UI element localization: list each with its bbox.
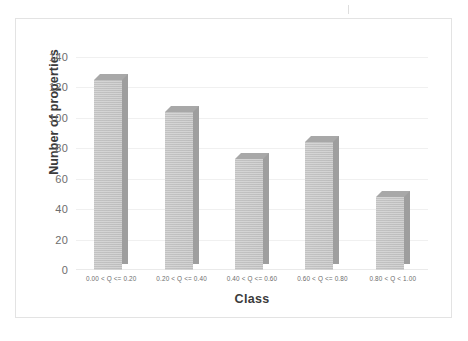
x-tick-label: 0.20 < Q <= 0.40 [146,275,216,289]
y-tick-label: 60 [55,173,68,185]
bar-side-face [333,136,339,264]
bar-column[interactable] [165,112,199,270]
y-tick-label: 40 [55,203,68,215]
bar-side-face [193,106,199,264]
y-axis-tick-labels: 140 120 100 80 60 40 20 0 [0,57,76,270]
bars-layer [76,57,428,270]
y-tick-label: 20 [55,234,68,246]
bar-front-face [376,197,404,270]
plot-area [76,57,428,270]
bar-column[interactable] [94,80,128,270]
bar-column[interactable] [376,197,410,270]
bar-side-face [122,74,128,264]
y-tick-label: 100 [49,112,68,124]
y-tick-label: 0 [62,264,68,276]
bar-slot [217,57,287,270]
bar-side-face [263,153,269,264]
bar-front-face [235,159,263,270]
bar-side-face [404,191,410,264]
x-tick-label: 0.00 < Q <= 0.20 [76,275,146,289]
bar-front-face [94,80,122,270]
bar-slot [287,57,357,270]
bar-chart-figure: Nunber of properties 140 120 100 80 60 4… [0,0,468,341]
x-axis-tick-labels: 0.00 < Q <= 0.20 0.20 < Q <= 0.40 0.40 <… [76,275,428,289]
x-tick-label: 0.80 < Q < 1.00 [358,275,428,289]
x-tick-label: 0.60 < Q <= 0.80 [287,275,357,289]
bar-column[interactable] [305,142,339,270]
x-tick-label: 0.40 < Q <= 0.60 [217,275,287,289]
bar-front-face [305,142,333,270]
bar-slot [146,57,216,270]
y-tick-label: 80 [55,142,68,154]
bar-slot [358,57,428,270]
image-artifact-mark [348,5,349,14]
y-tick-label: 140 [49,51,68,63]
bar-column[interactable] [235,159,269,270]
x-axis-title: Class [76,292,428,306]
bar-front-face [165,112,193,270]
bar-slot [76,57,146,270]
y-tick-label: 120 [49,81,68,93]
